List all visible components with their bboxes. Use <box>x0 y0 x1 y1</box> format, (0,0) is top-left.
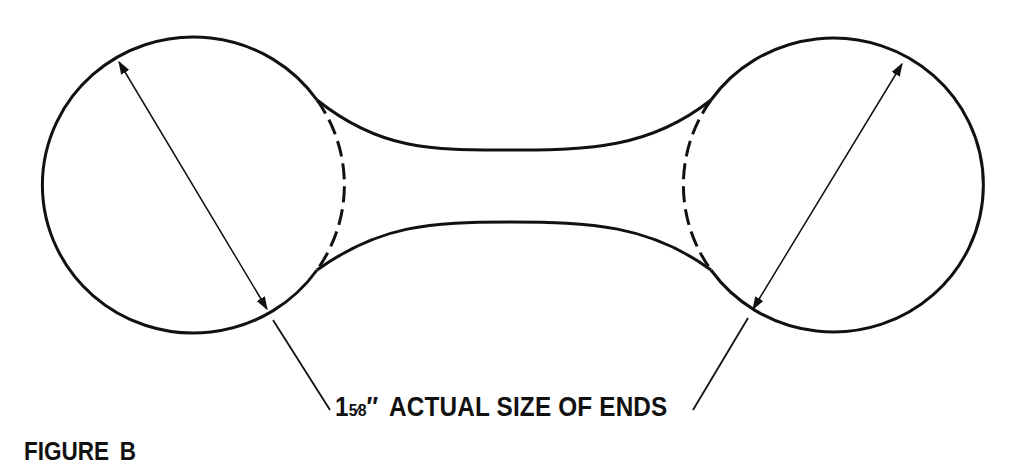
right-end-circle <box>683 38 983 332</box>
dimension-fraction: 5⁄8 <box>349 401 366 420</box>
dimension-text: ACTUAL SIZE OF ENDS <box>389 392 667 422</box>
left-diameter-arrow <box>119 62 267 309</box>
figure-caption: FIGURE B <box>24 437 136 466</box>
right-diameter-arrow <box>753 64 902 309</box>
bridge-outline <box>317 100 711 270</box>
bridge-bottom-edge <box>317 222 711 270</box>
inch-mark: ″ <box>366 392 378 422</box>
dimension-label: 15⁄8″ACTUAL SIZE OF ENDS <box>335 392 667 423</box>
dimension-whole: 1 <box>335 392 349 422</box>
left-leader-line <box>273 320 330 410</box>
bridge-top-edge <box>317 100 711 150</box>
right-leader-line <box>693 318 748 410</box>
